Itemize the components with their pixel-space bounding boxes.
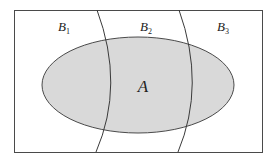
label-b1-base: B [58,19,66,34]
label-b2: B2 [140,19,152,36]
label-b3-sub: 3 [225,27,229,36]
label-b3: B3 [217,19,229,36]
label-a: A [137,77,149,96]
label-b2-base: B [140,19,148,34]
label-b2-sub: 2 [148,27,152,36]
label-b1-sub: 1 [66,27,70,36]
label-b1: B1 [58,19,70,36]
venn-diagram: A B1 B2 B3 [0,0,275,159]
label-b3-base: B [217,19,225,34]
